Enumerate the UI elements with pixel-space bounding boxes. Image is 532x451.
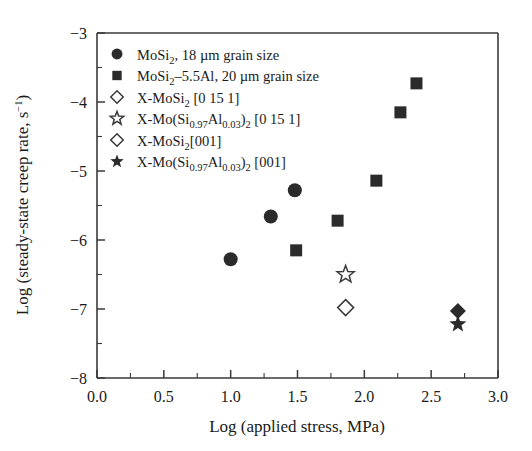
y-tick-label: −3 [70,25,87,42]
x-tick-label: 2.5 [421,388,441,405]
x-tick-label: 1.5 [288,388,308,405]
x-tick-label: 1.0 [221,388,241,405]
x-tick-label: 2.0 [354,388,374,405]
y-axis-title-superscript: −1 [13,101,24,112]
square-filled-marker [112,71,121,80]
circle-filled-marker [264,210,278,224]
x-tick-label: 3.0 [488,388,508,405]
y-tick-label: −8 [70,370,87,387]
square-filled-marker [394,106,406,118]
y-axis-title-close: ) [13,95,32,101]
square-filled-marker [290,244,302,256]
x-tick-label: 0.0 [87,388,107,405]
y-tick-label: −6 [70,232,87,249]
svg-text:Log (steady-state creep rate,: Log (steady-state creep rate, s−1) [13,95,32,315]
circle-filled-marker [112,49,123,60]
y-tick-label: −7 [70,301,87,318]
square-filled-marker [410,77,422,89]
y-tick-label: −5 [70,163,87,180]
square-filled-marker [370,175,382,187]
y-axis-title: Log (steady-state creep rate, s−1) [13,95,32,315]
scatter-chart: 0.00.51.01.52.02.53.0 −3−4−5−6−7−8 Log (… [0,0,532,451]
x-tick-label: 0.5 [154,388,174,405]
x-axis-title: Log (applied stress, MPa) [209,417,385,436]
circle-filled-marker [224,252,238,266]
y-axis-title-main: Log (steady-state creep rate, s [13,112,32,315]
circle-filled-marker [288,183,302,197]
square-filled-marker [332,215,344,227]
y-tick-label: −4 [70,94,87,111]
